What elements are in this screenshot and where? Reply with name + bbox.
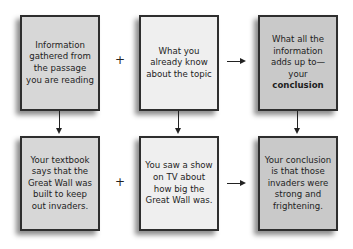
plus-operator-top: + [115,53,125,67]
box-textbook-example: Your textbook says that the Great Wall w… [20,136,100,231]
box-information-gathered-text: Information gathered from the passage yo… [26,40,94,86]
box-tv-show-example-text: You saw a show on TV about how big the G… [145,160,213,206]
box-tv-show-example: You saw a show on TV about how big the G… [139,136,219,231]
box-textbook-example-text: Your textbook says that the Great Wall w… [26,155,94,213]
arrow-down-head-icon-2 [175,128,181,134]
arrow-right-icon [227,61,241,62]
arrow-down-icon-3 [297,111,298,129]
arrow-right-head-icon [240,58,246,64]
box-conclusion-text: What all the information adds up to—your… [264,34,332,92]
arrow-right-icon-bottom [227,183,241,184]
box-prior-knowledge: What you already know about the topic [139,15,219,111]
conclusion-bold-word: conclusion [272,80,323,90]
arrow-down-head-icon-1 [56,128,62,134]
arrow-down-icon-1 [59,111,60,129]
box-conclusion-example: Your conclusion is that those invaders w… [258,136,338,231]
box-conclusion: What all the information adds up to—your… [258,15,338,111]
box-information-gathered: Information gathered from the passage yo… [20,15,100,111]
arrow-down-head-icon-3 [294,128,300,134]
box-conclusion-example-text: Your conclusion is that those invaders w… [264,155,332,213]
plus-operator-bottom: + [115,175,125,189]
arrow-down-icon-2 [178,111,179,129]
box-prior-knowledge-text: What you already know about the topic [145,46,213,81]
arrow-right-head-icon-bottom [240,180,246,186]
